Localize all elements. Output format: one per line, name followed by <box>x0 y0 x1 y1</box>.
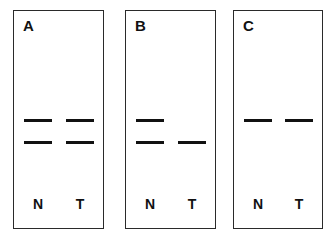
panel-b: B N T <box>125 10 216 229</box>
panel-label: B <box>135 18 146 33</box>
lane-label-t: T <box>66 197 94 211</box>
band-t-lower <box>178 141 206 144</box>
lane-label-n: N <box>136 197 164 211</box>
lane-label-n: N <box>24 197 52 211</box>
panel-label: A <box>23 18 34 33</box>
lane-label-t: T <box>285 197 313 211</box>
lane-label-t: T <box>178 197 206 211</box>
band-n-upper <box>136 119 164 122</box>
panel-a: A N T <box>13 10 104 229</box>
panel-label: C <box>243 18 254 33</box>
band-n-upper <box>244 119 272 122</box>
band-n-upper <box>24 119 52 122</box>
band-n-lower <box>136 141 164 144</box>
band-t-upper <box>285 119 313 122</box>
band-t-upper <box>66 119 94 122</box>
band-n-lower <box>24 141 52 144</box>
band-t-lower <box>66 141 94 144</box>
panel-c: C N T <box>233 10 323 229</box>
lane-label-n: N <box>244 197 272 211</box>
